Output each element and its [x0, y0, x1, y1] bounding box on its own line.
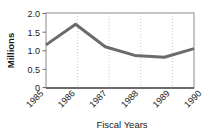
chart-container: 2.0 1.5 1.0 0.5 0 Millions 1985 1986 198…: [0, 0, 214, 132]
y-tick-marks: [43, 14, 47, 88]
y-tick-labels: 2.0 1.5 1.0 0.5 0: [27, 9, 40, 93]
x-tick-label-1987: 1987: [87, 88, 108, 109]
y-tick-label-1.0: 1.0: [27, 46, 40, 56]
y-tick-label-1.5: 1.5: [27, 28, 40, 38]
y-axis-title: Millions: [5, 33, 16, 68]
x-tick-label-1989: 1989: [151, 88, 172, 109]
y-tick-label-2.0: 2.0: [27, 9, 40, 19]
x-axis-title: Fiscal Years: [96, 119, 147, 130]
y-tick-label-0.5: 0.5: [27, 65, 40, 75]
line-chart: 2.0 1.5 1.0 0.5 0 Millions 1985 1986 198…: [0, 0, 214, 132]
x-tick-label-1988: 1988: [119, 88, 140, 109]
x-tick-label-1990: 1990: [182, 88, 203, 109]
x-tick-label-1985: 1985: [24, 88, 45, 109]
x-tick-labels: 1985 1986 1987 1988 1989 1990: [24, 88, 203, 109]
x-tick-label-1986: 1986: [56, 88, 77, 109]
